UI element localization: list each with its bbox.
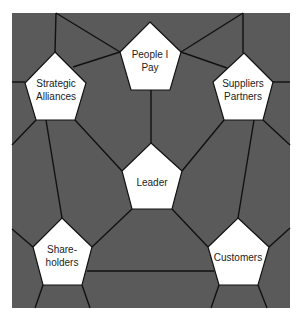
network-diagram [0, 0, 300, 318]
